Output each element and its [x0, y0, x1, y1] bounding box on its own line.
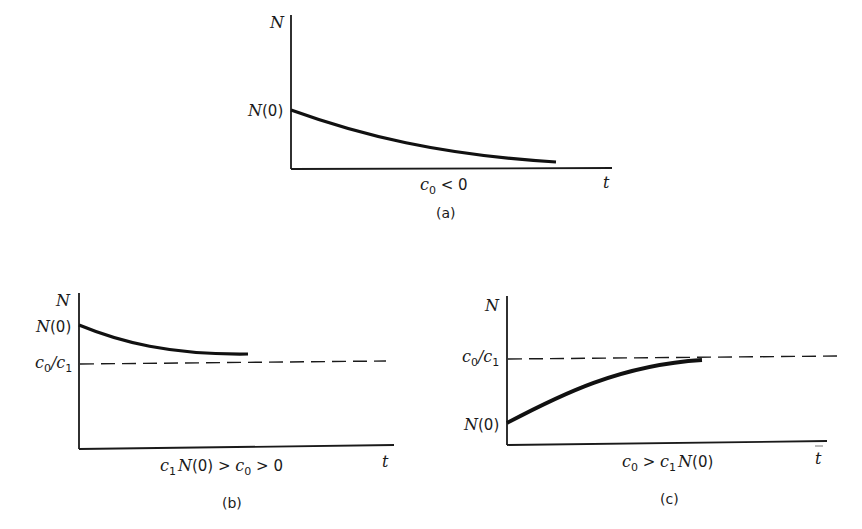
panel-b-x-axis [79, 445, 394, 449]
panel-b-condition: c1N(0) > c0 > 0 [160, 456, 283, 478]
panel-b-caption: (b) [222, 495, 242, 511]
panel-b: N t N(0) c0/c1 c1N(0) > c0 > 0 (b) [35, 291, 394, 511]
panel-b-tick-N0: N(0) [35, 317, 71, 336]
panel-a-curve [291, 110, 556, 162]
panel-c-curve [507, 360, 702, 423]
panel-c-tick-N0: N(0) [463, 415, 499, 434]
panel-a-x-axis [291, 168, 612, 169]
panel-c-condition: c0 > c1N(0) [622, 452, 713, 474]
panel-a-tick-N0: N(0) [247, 101, 283, 120]
panel-a-caption: (a) [436, 205, 456, 221]
panel-a-condition: c0 < 0 [420, 175, 468, 197]
panel-c-tick-c0-over-c1: c0/c1 [462, 347, 499, 369]
figure-canvas: N t N(0) c0 < 0 (a) N t N(0) c0/c1 c1N(0… [0, 0, 862, 529]
panel-b-y-label: N [55, 291, 71, 310]
panel-c-x-axis [507, 441, 827, 445]
panel-b-tick-c0-over-c1: c0/c1 [35, 353, 72, 375]
panel-c-y-label: N [484, 296, 500, 315]
panel-a-x-label: t [603, 173, 610, 192]
panel-c-x-label: t [815, 449, 822, 468]
panel-c-caption: (c) [660, 491, 679, 507]
panel-a-y-label: N [269, 13, 285, 32]
panel-b-asymptote-dashed [80, 361, 386, 364]
panel-c-asymptote-dashed [508, 356, 838, 359]
panel-b-curve [79, 325, 248, 354]
panel-a: N t N(0) c0 < 0 (a) [247, 13, 612, 221]
panel-c: N t c0/c1 N(0) c0 > c1N(0) (c) [462, 296, 838, 507]
panel-b-x-label: t [382, 452, 389, 471]
